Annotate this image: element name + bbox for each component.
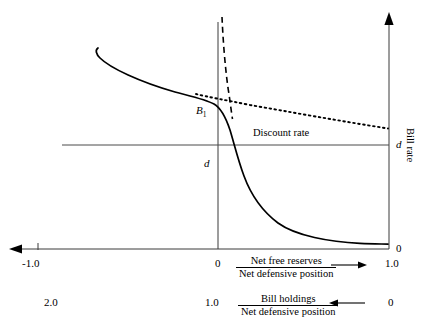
x-tick-zero: 0: [215, 258, 221, 269]
bill-rate-curve: [96, 48, 388, 244]
dotted-schedule: [196, 94, 388, 129]
x2-tick-one: 1.0: [205, 297, 219, 308]
x-tick-one: 1.0: [385, 258, 399, 269]
x-axis-arrowhead: [9, 244, 22, 253]
x-axis-title-primary-denominator: Net defensive position: [236, 267, 336, 280]
chart-canvas: [0, 0, 435, 326]
y-axis-title: Bill rate: [405, 128, 416, 162]
x-axis-title-secondary: Bill holdings Net defensive position: [238, 293, 338, 319]
annotation-b1-subscript: 1: [203, 110, 207, 119]
d-label-left: d: [204, 158, 210, 169]
annotation-b1: B1: [196, 105, 206, 119]
y-axis-arrowhead: [384, 12, 393, 25]
x-axis-title-secondary-numerator: Bill holdings: [238, 293, 338, 305]
discount-rate-label: Discount rate: [253, 128, 309, 139]
y-axis-zero-label: 0: [396, 243, 402, 254]
d-label-right: d: [396, 139, 402, 150]
x2-tick-two: 2.0: [44, 297, 58, 308]
steep-dashed-schedule: [222, 17, 233, 119]
annotation-b1-base: B: [196, 104, 203, 116]
x-axis-title-primary: Net free reserves Net defensive position: [236, 255, 336, 281]
chart-figure: B1 Discount rate d d 0 Bill rate -1.0 0 …: [0, 0, 435, 326]
x-axis-baseline: [9, 243, 389, 254]
x-axis-title-primary-numerator: Net free reserves: [236, 255, 336, 267]
x-tick-minus-one: -1.0: [22, 258, 39, 269]
x-axis-title-secondary-denominator: Net defensive position: [238, 305, 338, 318]
y-axis-right: [384, 12, 393, 249]
x2-tick-zero: 0: [388, 297, 394, 308]
